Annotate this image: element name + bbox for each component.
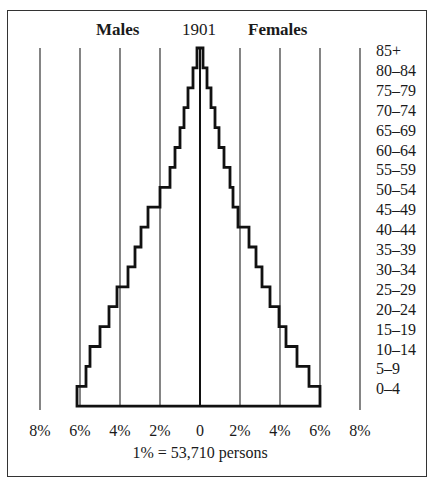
x-tick-label: 2% bbox=[229, 422, 250, 440]
pyramid-outline bbox=[77, 48, 320, 406]
age-label: 70–74 bbox=[376, 101, 416, 121]
age-label: 80–84 bbox=[376, 61, 416, 81]
age-label: 0–4 bbox=[376, 379, 400, 399]
scale-note: 1% = 53,710 persons bbox=[0, 444, 400, 462]
x-tick-label: 4% bbox=[269, 422, 290, 440]
x-tick-label: 8% bbox=[29, 422, 50, 440]
age-label: 85+ bbox=[376, 41, 401, 61]
x-tick-label: 4% bbox=[109, 422, 130, 440]
x-tick-label: 6% bbox=[69, 422, 90, 440]
age-label: 50–54 bbox=[376, 180, 416, 200]
x-tick-label: 0 bbox=[196, 422, 204, 440]
age-label: 55–59 bbox=[376, 160, 416, 180]
age-label: 25–29 bbox=[376, 280, 416, 300]
x-tick-label: 2% bbox=[149, 422, 170, 440]
population-pyramid bbox=[0, 0, 438, 487]
x-tick-label: 8% bbox=[349, 422, 370, 440]
age-label: 35–39 bbox=[376, 240, 416, 260]
age-label: 65–69 bbox=[376, 121, 416, 141]
age-label: 5–9 bbox=[376, 359, 400, 379]
age-label: 20–24 bbox=[376, 300, 416, 320]
age-label: 60–64 bbox=[376, 141, 416, 161]
age-label: 15–19 bbox=[376, 320, 416, 340]
age-label: 45–49 bbox=[376, 200, 416, 220]
age-label: 10–14 bbox=[376, 340, 416, 360]
age-label: 30–34 bbox=[376, 260, 416, 280]
age-label: 75–79 bbox=[376, 81, 416, 101]
age-label: 40–44 bbox=[376, 220, 416, 240]
x-tick-label: 6% bbox=[309, 422, 330, 440]
